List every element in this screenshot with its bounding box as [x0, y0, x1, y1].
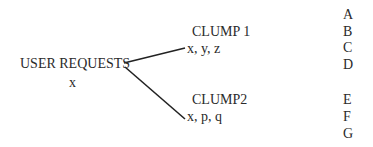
row-label-b: B: [343, 24, 352, 40]
root-node-items: x: [69, 75, 76, 91]
row-label-a: A: [343, 7, 353, 23]
row-label-g: G: [343, 126, 353, 142]
root-node-title: USER REQUESTS: [20, 56, 130, 72]
clump-1-items: x, y, z: [187, 41, 220, 57]
edge-to-clump-1: [124, 48, 185, 63]
row-label-c: C: [343, 40, 352, 56]
row-label-e: E: [343, 92, 352, 108]
row-label-d: D: [343, 57, 353, 73]
row-label-f: F: [343, 109, 351, 125]
edge-to-clump-2: [125, 67, 185, 119]
clump-1-title: CLUMP 1: [192, 24, 250, 40]
clump-2-title: CLUMP2: [192, 92, 247, 108]
clump-2-items: x, p, q: [187, 109, 222, 125]
